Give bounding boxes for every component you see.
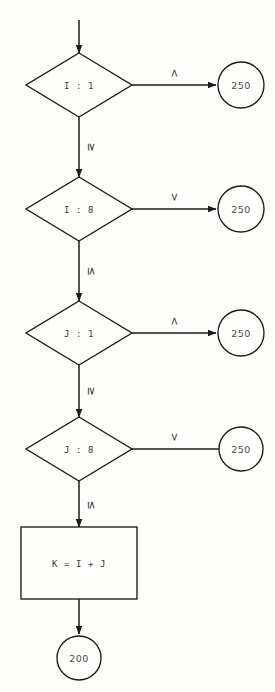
decision-node-4-label: J : 8 [64, 445, 94, 455]
decision-node-2-label: I : 8 [64, 205, 94, 215]
branch-2-down-label: ≤ [85, 266, 98, 275]
terminal-node-4-label: 250 [231, 444, 250, 455]
branch-1-right-label: < [168, 68, 181, 77]
terminal-node-3-label: 250 [231, 328, 250, 339]
branch-3-right-label: < [168, 316, 181, 325]
flowchart-diagram: I : 1 < 250 ≥ I : 8 > 250 ≤ J : 1 < 250 … [0, 0, 275, 692]
process-node-1-label: K = I + J [52, 559, 106, 569]
branch-2-right-label: > [168, 192, 181, 201]
branch-1-down-label: ≥ [85, 142, 98, 151]
decision-node-1-label: I : 1 [64, 81, 94, 91]
terminal-node-2-label: 250 [231, 204, 250, 215]
branch-4-right-label: > [168, 432, 181, 441]
flowchart-canvas: I : 1 < 250 ≥ I : 8 > 250 ≤ J : 1 < 250 … [0, 0, 275, 692]
terminal-node-1-label: 250 [231, 80, 250, 91]
decision-node-3-label: J : 1 [64, 329, 94, 339]
terminal-node-5-label: 200 [69, 653, 88, 664]
branch-4-down-label: ≤ [85, 500, 98, 509]
branch-3-down-label: ≥ [85, 386, 98, 395]
